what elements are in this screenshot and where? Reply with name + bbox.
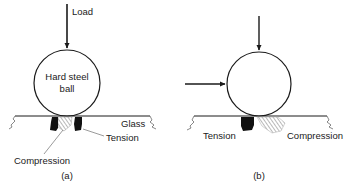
panel-b: Tension Compression (b)	[185, 16, 343, 181]
caption-a: (a)	[61, 170, 73, 181]
load-label: Load	[72, 6, 93, 17]
compression-zone	[257, 117, 285, 133]
tension-label-b: Tension	[203, 130, 236, 141]
caption-b: (b)	[253, 170, 265, 181]
tension-leader	[83, 129, 104, 136]
compression-label-a: Compression	[14, 155, 70, 166]
glass-break-left	[187, 116, 194, 130]
compression-zone	[58, 117, 72, 131]
tension-zone-left	[50, 117, 58, 131]
glass-break-left	[9, 116, 15, 129]
compression-label-b: Compression	[287, 130, 343, 141]
tension-zone	[241, 117, 254, 131]
glass-label: Glass	[121, 118, 146, 129]
indentation-diagram: Load Hard steel ball Glass Tension Compr…	[0, 0, 346, 188]
glass-break-right	[150, 116, 156, 129]
tension-zone-right	[74, 117, 82, 131]
steel-ball	[227, 52, 291, 116]
glass-break-right	[327, 116, 333, 129]
tension-label-a: Tension	[106, 132, 139, 143]
panel-a: Load Hard steel ball Glass Tension Compr…	[9, 4, 156, 181]
compression-leader	[44, 130, 63, 154]
ball-label-line2: ball	[60, 83, 75, 94]
ball-label-line1: Hard steel	[45, 71, 88, 82]
